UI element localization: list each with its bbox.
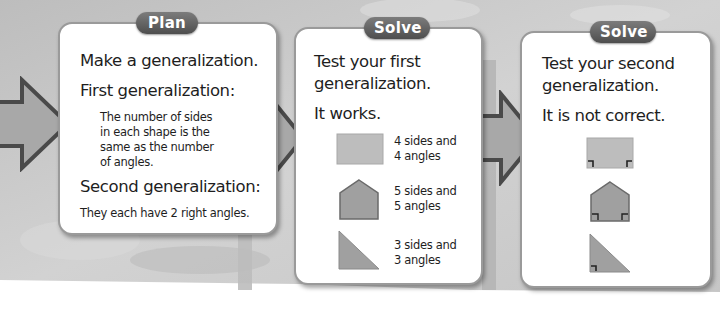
pentagon-description: 5 sides and 5 angles [394,184,457,214]
solve-first-result: It works. [314,103,381,125]
heading-line: Test your first [314,51,431,73]
first-generalization-line: in each shape is the [100,125,214,140]
solve-tag: Solve [364,17,430,39]
first-generalization-text: The number of sides in each shape is the… [100,110,214,170]
solve-second-heading: Test your second generalization. [542,53,675,97]
first-generalization-line: The number of sides [100,110,214,125]
plan-tag: Plan [136,12,198,34]
solve-first-panel: Solve Test your first generalization. It… [294,27,483,285]
rectangle-description: 4 sides and 4 angles [394,134,457,164]
second-generalization-label: Second generalization: [80,176,260,198]
rectangle-right-angles-icon [586,137,634,169]
plan-heading: Make a generalization. [80,50,258,72]
triangle-icon [338,230,380,270]
solve-second-result: It is not correct. [542,105,665,127]
plan-panel: Plan Make a generalization. First genera… [58,22,278,235]
heading-line: Test your second [542,53,675,75]
second-generalization-text: They each have 2 right angles. [80,206,249,221]
triangle-description: 3 sides and 3 angles [394,238,457,268]
heading-line: generalization. [314,73,431,95]
first-generalization-label: First generalization: [80,80,235,102]
solve-first-heading: Test your first generalization. [314,51,431,95]
solve-tag: Solve [590,21,656,43]
heading-line: generalization. [542,75,675,97]
rectangle-icon [336,133,384,165]
triangle-right-angle-icon [589,233,631,273]
first-generalization-line: of angles. [100,155,214,170]
pentagon-right-angles-icon [589,181,631,223]
pentagon-icon [338,179,380,221]
first-generalization-line: same as the number [100,140,214,155]
solve-second-panel: Solve Test your second generalization. I… [520,31,712,288]
